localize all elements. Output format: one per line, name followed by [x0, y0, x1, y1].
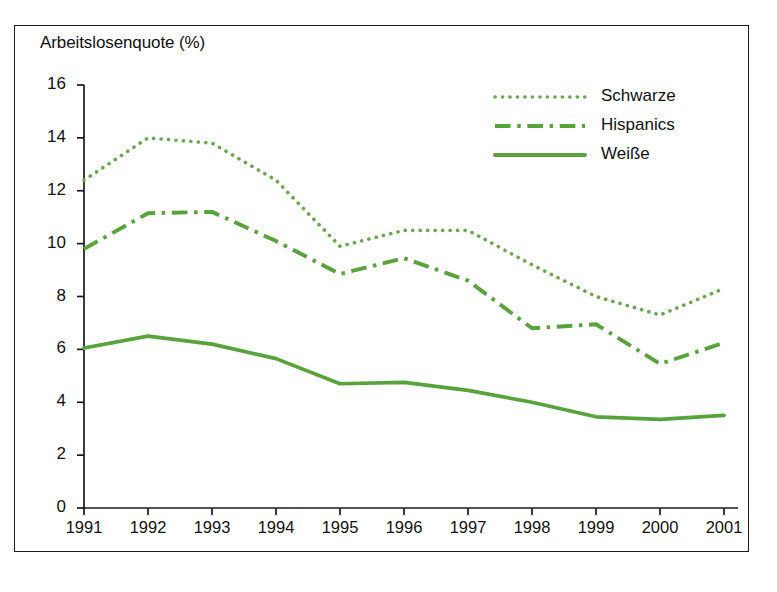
y-tick-label: 2	[32, 444, 66, 464]
x-tick-label: 2000	[627, 518, 693, 537]
series-line-schwarze	[84, 138, 724, 315]
x-tick-label: 1997	[435, 518, 501, 537]
y-tick-label: 12	[32, 180, 66, 200]
x-tick-label: 1999	[563, 518, 629, 537]
x-tick-label: 1993	[179, 518, 245, 537]
chart-figure: Arbeitslosenquote (%) 0246810121416 1991…	[0, 0, 777, 592]
legend-swatches	[495, 97, 585, 155]
x-tick-label: 1992	[115, 518, 181, 537]
legend-label-hispanics: Hispanics	[601, 115, 675, 135]
x-tick-label: 1998	[499, 518, 565, 537]
x-tick-label: 2001	[691, 518, 757, 537]
y-tick-label: 6	[32, 338, 66, 358]
legend-label-weie: Weiße	[601, 144, 650, 164]
x-tick-label: 1995	[307, 518, 373, 537]
y-tick-label: 10	[32, 233, 66, 253]
y-tick-label: 8	[32, 286, 66, 306]
legend-label-schwarze: Schwarze	[601, 86, 676, 106]
series-lines	[84, 138, 724, 420]
y-tick-label: 0	[32, 497, 66, 517]
x-tick-label: 1994	[243, 518, 309, 537]
y-tick-label: 4	[32, 391, 66, 411]
series-line-weie	[84, 336, 724, 419]
x-tick-label: 1996	[371, 518, 437, 537]
y-tick-label: 14	[32, 127, 66, 147]
y-tick-label: 16	[32, 74, 66, 94]
x-tick-label: 1991	[51, 518, 117, 537]
